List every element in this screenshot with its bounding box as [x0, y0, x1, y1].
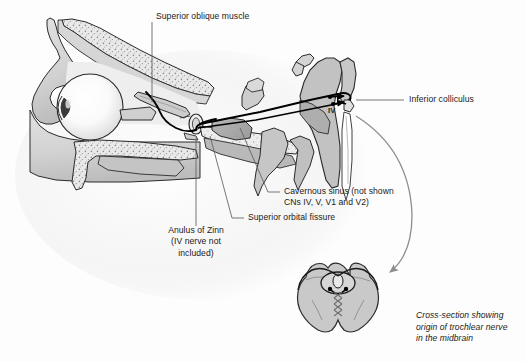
figure-canvas: Superior oblique muscle Inferior collicu…	[0, 0, 525, 362]
label-nerve-marker-iv: IV	[328, 105, 336, 116]
label-superior-oblique-muscle: Superior oblique muscle	[156, 11, 249, 22]
anatomy-illustration	[0, 0, 525, 362]
eyeball	[57, 74, 123, 140]
caption-cross-section: Cross-section showing origin of trochlea…	[416, 310, 508, 345]
iris-highlight	[65, 99, 70, 108]
label-inferior-colliculus: Inferior colliculus	[409, 94, 474, 105]
label-superior-orbital-fissure: Superior orbital fissure	[248, 212, 335, 223]
midbrain-cross-section	[298, 263, 379, 332]
label-anulus-of-zinn: Anulus of Zinn (IV nerve not included)	[131, 225, 261, 259]
aqueduct	[333, 274, 343, 288]
